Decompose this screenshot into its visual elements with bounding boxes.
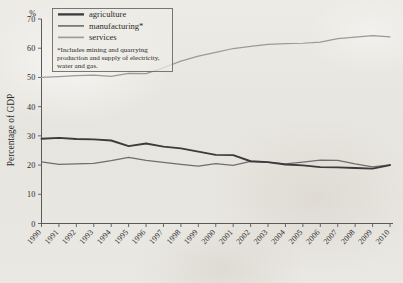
y-axis-ticks <box>38 19 42 224</box>
y-tick-label: 40 <box>27 103 36 112</box>
legend-label-services: services <box>89 32 117 42</box>
x-tick-label: 2000 <box>200 228 218 246</box>
y-axis-title: Percentage of GDP <box>6 94 16 166</box>
y-tick-label: 0 <box>31 220 35 229</box>
x-tick-label: 1992 <box>60 228 78 246</box>
x-tick-label: 2001 <box>217 228 235 246</box>
x-tick-label: 2006 <box>304 228 322 246</box>
x-tick-label: 1991 <box>43 228 61 246</box>
y-axis-tick-labels: 010203040506070 <box>27 15 36 229</box>
x-axis-ticks <box>42 224 391 228</box>
x-tick-label: 2010 <box>374 228 392 246</box>
y-tick-label: 60 <box>27 44 36 53</box>
footnote-line: *Includes mining and quarrying <box>57 46 148 54</box>
y-tick-label: 10 <box>27 190 36 199</box>
x-axis-tick-labels: 1990199119921993199419951996199719981999… <box>25 228 391 246</box>
chart-canvas: 010203040506070 199019911992199319941995… <box>0 0 403 283</box>
x-tick-label: 2008 <box>339 228 357 246</box>
x-tick-label: 1990 <box>25 228 43 246</box>
series-line-manufacturing <box>42 157 391 166</box>
percent-unit-label: % <box>29 9 36 18</box>
gdp-sector-line-chart: 010203040506070 199019911992199319941995… <box>0 0 403 283</box>
legend-label-agriculture: agriculture <box>89 9 126 19</box>
x-tick-label: 1993 <box>78 228 96 246</box>
x-tick-label: 1996 <box>130 228 148 246</box>
x-tick-label: 1994 <box>95 228 113 246</box>
y-tick-label: 30 <box>27 132 36 141</box>
footnote-line: production and supply of electricity, <box>57 54 160 62</box>
x-tick-label: 2004 <box>269 228 287 246</box>
y-tick-label: 20 <box>27 161 36 170</box>
x-tick-label: 2002 <box>234 228 252 246</box>
x-tick-label: 2005 <box>287 228 305 246</box>
x-tick-label: 1999 <box>182 228 200 246</box>
x-tick-label: 1997 <box>147 228 165 246</box>
x-tick-label: 1998 <box>165 228 183 246</box>
chart-legend: agriculturemanufacturing*services *Inclu… <box>53 9 173 72</box>
x-tick-label: 2003 <box>252 228 270 246</box>
legend-label-manufacturing: manufacturing* <box>89 21 143 31</box>
footnote-line: water and gas. <box>57 62 98 70</box>
x-tick-label: 1995 <box>112 228 130 246</box>
y-tick-label: 50 <box>27 73 36 82</box>
x-tick-label: 2007 <box>322 228 340 246</box>
x-tick-label: 2009 <box>356 228 374 246</box>
